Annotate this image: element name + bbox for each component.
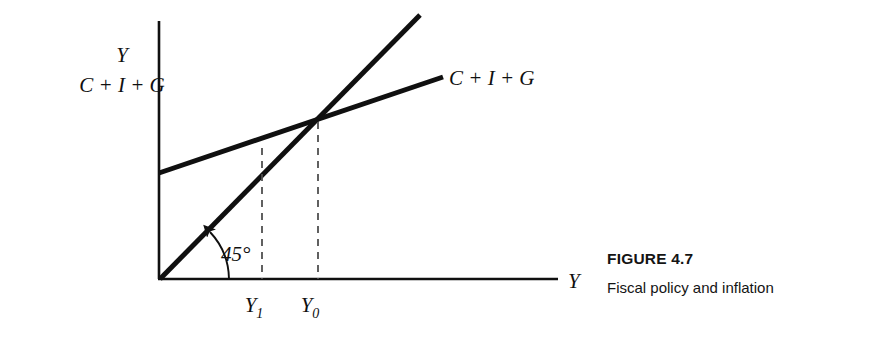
figure-container: Y C + I + G Y C + I + G 45° Y1 Y0 FIGURE… xyxy=(0,0,893,337)
figure-caption-title: FIGURE 4.7 xyxy=(607,250,887,267)
forty-five-degree-line xyxy=(160,15,420,279)
x-axis-label: Y xyxy=(568,269,582,293)
c-i-g-curve-label: C + I + G xyxy=(449,66,535,90)
angle-label: 45° xyxy=(221,242,251,266)
tick-label-y0-sub: 0 xyxy=(312,306,319,321)
tick-label-y1-sub: 1 xyxy=(256,306,263,321)
y-axis-label-line2: C + I + G xyxy=(79,73,165,97)
y-axis-label-line1: Y xyxy=(116,43,130,67)
c-i-g-line xyxy=(159,77,443,173)
figure-caption: FIGURE 4.7 Fiscal policy and inflation xyxy=(607,250,887,296)
tick-label-y0: Y0 xyxy=(301,293,320,321)
figure-caption-subtitle: Fiscal policy and inflation xyxy=(607,279,887,296)
tick-label-y1: Y1 xyxy=(245,293,264,321)
